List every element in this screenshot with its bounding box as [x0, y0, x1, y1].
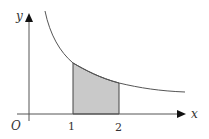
diagram-canvas: y x O 1 2 [0, 0, 209, 139]
x-axis-arrow-icon [177, 110, 186, 118]
y-axis-arrow-icon [25, 13, 33, 22]
origin-label: O [11, 119, 21, 133]
tick-label-1: 1 [68, 120, 75, 133]
area-under-curve-diagram: y x O 1 2 [0, 0, 209, 139]
y-axis-label: y [15, 9, 23, 23]
shaded-region [73, 63, 119, 114]
tick-label-2: 2 [115, 121, 122, 134]
curve [45, 11, 185, 92]
x-axis-label: x [191, 107, 198, 121]
